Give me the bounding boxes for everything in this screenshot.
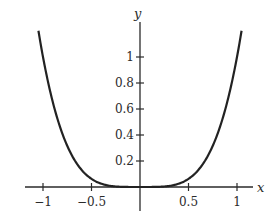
y-tick-label: 0.6 xyxy=(115,102,134,116)
function-plot: −1−0.50.51 0.20.40.60.81 x y xyxy=(0,0,271,223)
axes xyxy=(25,22,253,211)
y-tick-label: 1 xyxy=(126,50,134,64)
x-tick-label: −0.5 xyxy=(77,195,106,209)
y-tick-label: 0.2 xyxy=(115,154,134,168)
y-tick-label: 0.4 xyxy=(115,128,134,142)
y-axis-label: y xyxy=(133,6,142,21)
x-axis-label: x xyxy=(257,180,265,195)
y-tick-label: 0.8 xyxy=(115,76,134,90)
x-tick-label: 0.5 xyxy=(179,195,198,209)
x-tick-label: 1 xyxy=(233,195,241,209)
x-tick-label: −1 xyxy=(34,195,52,209)
